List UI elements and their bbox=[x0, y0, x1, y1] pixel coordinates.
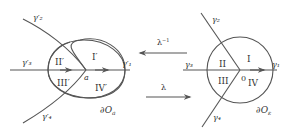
boundary-label-Oe: ∂Oε bbox=[256, 105, 271, 116]
label-gamma2-prime: γ′₂ bbox=[33, 13, 43, 22]
region-II-prime: II′ bbox=[55, 57, 64, 67]
region-III-prime: III′ bbox=[57, 78, 70, 88]
label-gamma2: γ₂ bbox=[212, 15, 220, 24]
region-II: II bbox=[219, 59, 227, 69]
lambda-inverse-label: λ−1 bbox=[157, 37, 169, 47]
region-I: I bbox=[247, 54, 251, 64]
boundary-curve-Oa-closed bbox=[48, 40, 125, 98]
label-gamma4-prime: γ′₄ bbox=[42, 112, 52, 121]
point-a-label: a bbox=[84, 73, 89, 82]
label-gamma3: γ₃ bbox=[185, 60, 193, 69]
lambda-label: λ bbox=[161, 83, 166, 92]
boundary-label-Oa: ∂Oa bbox=[100, 105, 116, 116]
label-gamma4: γ₄ bbox=[213, 113, 221, 122]
origin-label: 0 bbox=[241, 74, 246, 83]
mapping-arrows: λ−1 λ bbox=[140, 37, 190, 97]
label-gamma1: γ₁ bbox=[272, 60, 280, 69]
region-IV-prime: IV′ bbox=[95, 83, 107, 93]
diagram-canvas: γ′₂ γ′₃ γ′₁ γ′₄ I′ II′ III′ IV′ a ∂Oa λ−… bbox=[0, 0, 289, 134]
label-gamma1-prime: γ′₁ bbox=[122, 59, 132, 68]
label-gamma3-prime: γ′₃ bbox=[22, 58, 32, 67]
left-domain: γ′₂ γ′₃ γ′₁ γ′₄ I′ II′ III′ IV′ a ∂Oa bbox=[10, 13, 132, 123]
region-IV: IV bbox=[248, 78, 259, 88]
region-III: III bbox=[218, 76, 229, 86]
right-domain: γ₂ γ₃ γ₁ γ₄ I II III IV 0 ∂Oε bbox=[183, 13, 280, 127]
region-I-prime: I′ bbox=[92, 52, 98, 62]
